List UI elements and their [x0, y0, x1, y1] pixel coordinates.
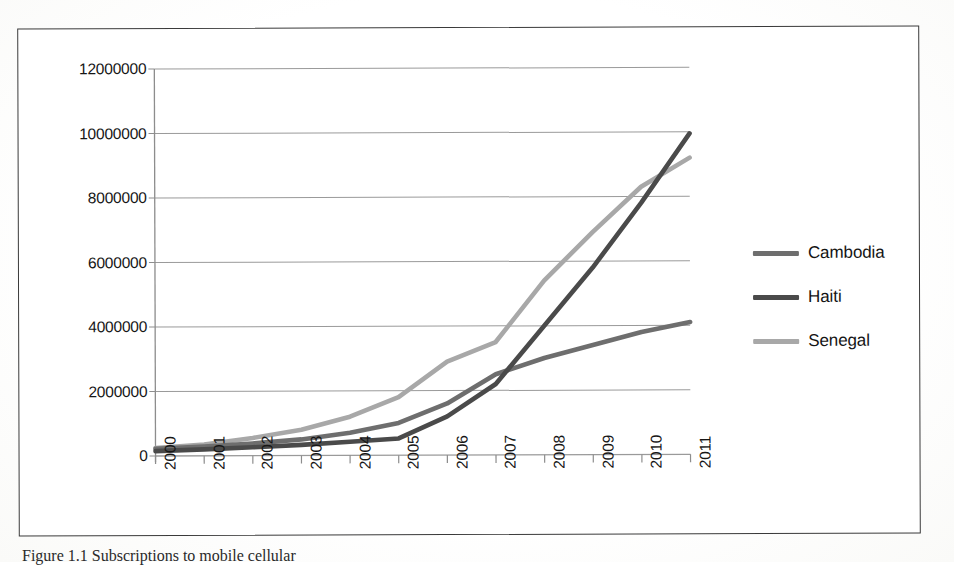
legend-swatch-cambodia [753, 250, 799, 255]
figure-caption: Figure 1.1 Subscriptions to mobile cellu… [22, 547, 296, 565]
legend-item-cambodia[interactable]: Cambodia [753, 231, 913, 276]
x-tick-label: 2007 [502, 435, 520, 469]
legend-label: Cambodia [808, 243, 885, 263]
x-tick-label: 2009 [599, 435, 617, 469]
legend-swatch-haiti [753, 294, 799, 299]
x-tick-label: 2001 [210, 436, 228, 470]
x-tick-label: 2010 [648, 435, 666, 469]
chart-canvas: 0200000040000006000000800000010000000120… [17, 26, 921, 537]
legend-swatch-senegal [753, 338, 799, 343]
x-tick-label: 2006 [453, 435, 471, 469]
legend-label: Haiti [808, 287, 842, 307]
x-tick-label: 2003 [307, 436, 325, 470]
x-tick-label: 2011 [696, 436, 714, 469]
x-tick-label: 2005 [405, 435, 423, 469]
x-tick-label: 2002 [259, 436, 277, 470]
legend-item-senegal[interactable]: Senegal [753, 319, 913, 364]
x-tick-label: 2008 [551, 435, 569, 469]
x-tick-label: 2000 [161, 436, 179, 470]
legend-item-haiti[interactable]: Haiti [753, 275, 913, 320]
chart-legend: CambodiaHaitiSenegal [753, 231, 913, 364]
x-tick-label: 2004 [356, 436, 374, 470]
legend-label: Senegal [808, 331, 870, 351]
